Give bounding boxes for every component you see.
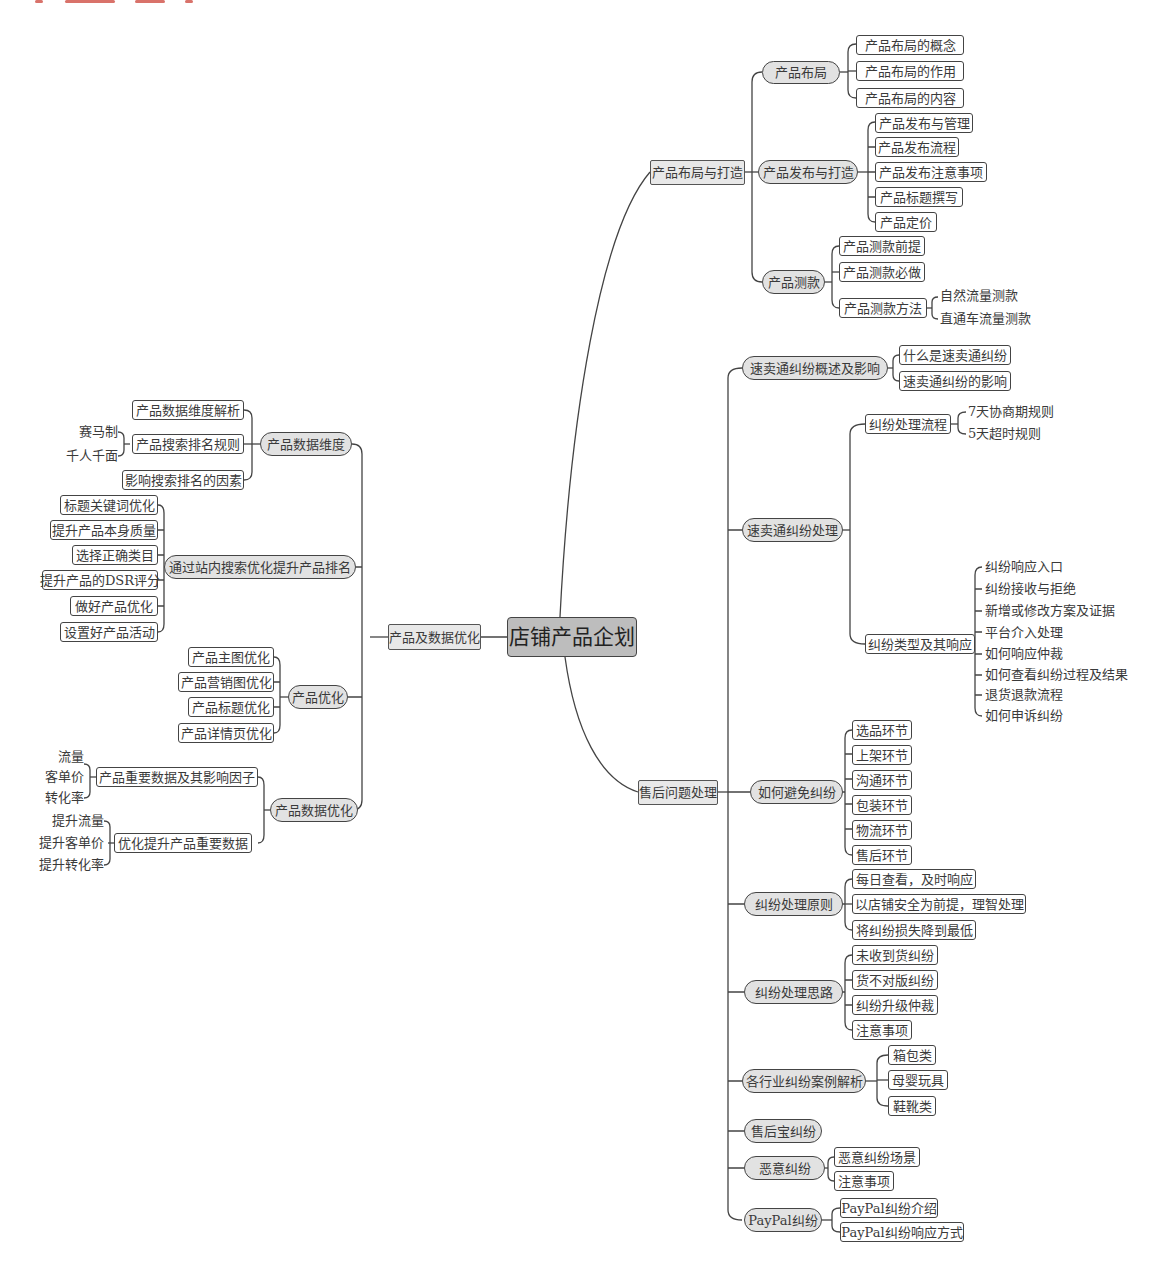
leaf-search-rank-rules[interactable]: 产品搜索排名规则 — [132, 434, 244, 454]
branch-aftersale[interactable]: 售后问题处理 — [638, 780, 718, 805]
text-types-0: 纠纷响应入口 — [985, 560, 1063, 573]
leaf-search-1[interactable]: 提升产品本身质量 — [50, 520, 158, 540]
node-product-publish[interactable]: 产品发布与打造 — [758, 160, 858, 184]
leaf-layout-role[interactable]: 产品布局的作用 — [856, 61, 964, 81]
leaf-avoid-1[interactable]: 上架环节 — [852, 745, 912, 765]
leaf-optimize-2[interactable]: 产品标题优化 — [188, 697, 274, 717]
text-improve-conversion: 提升转化率 — [30, 858, 104, 871]
text-5day-rule: 5天超时规则 — [968, 427, 1041, 440]
node-paypal-dispute[interactable]: PayPal纠纷 — [744, 1208, 822, 1232]
node-malicious-dispute[interactable]: 恶意纠纷 — [744, 1156, 825, 1180]
node-product-layout[interactable]: 产品布局 — [762, 61, 840, 84]
node-data-optimize[interactable]: 产品数据优化 — [270, 798, 358, 822]
leaf-avoid-0[interactable]: 选品环节 — [852, 720, 912, 740]
leaf-case-baby[interactable]: 母婴玩具 — [888, 1070, 948, 1090]
leaf-rank-factors[interactable]: 影响搜索排名的因素 — [122, 470, 244, 490]
text-types-3: 平台介入处理 — [985, 626, 1063, 639]
node-avoid-dispute[interactable]: 如何避免纠纷 — [750, 780, 843, 804]
leaf-malicious-notes[interactable]: 注意事项 — [834, 1171, 894, 1191]
node-dispute-principle[interactable]: 纠纷处理原则 — [744, 892, 843, 916]
leaf-publish-flow[interactable]: 产品发布流程 — [875, 137, 959, 157]
leaf-principle-0[interactable]: 每日查看，及时响应 — [852, 869, 976, 889]
text-types-4: 如何响应仲裁 — [985, 647, 1063, 660]
text-types-2: 新增或修改方案及证据 — [985, 604, 1115, 617]
branch-data[interactable]: 产品及数据优化 — [388, 624, 481, 650]
branch-layout[interactable]: 产品布局与打造 — [650, 160, 745, 185]
leaf-search-5[interactable]: 设置好产品活动 — [60, 622, 158, 642]
leaf-dispute-impact[interactable]: 速卖通纠纷的影响 — [899, 371, 1011, 391]
leaf-malicious-scene[interactable]: 恶意纠纷场景 — [834, 1147, 920, 1167]
node-dispute-approach[interactable]: 纠纷处理思路 — [744, 980, 843, 1004]
text-improve-traffic: 提升流量 — [30, 814, 104, 827]
text-horse-race: 赛马制 — [80, 425, 118, 438]
text-types-6: 退货退款流程 — [985, 688, 1063, 701]
text-personalized: 千人千面 — [66, 449, 118, 462]
node-product-testing[interactable]: 产品测款 — [762, 270, 825, 294]
leaf-case-shoes[interactable]: 鞋靴类 — [888, 1096, 936, 1116]
node-key-data-factors[interactable]: 产品重要数据及其影响因子 — [96, 767, 258, 787]
leaf-paypal-intro[interactable]: PayPal纠纷介绍 — [840, 1198, 938, 1218]
leaf-case-bags[interactable]: 箱包类 — [888, 1045, 936, 1065]
leaf-optimize-0[interactable]: 产品主图优化 — [188, 647, 274, 667]
node-industry-cases[interactable]: 各行业纠纷案例解析 — [742, 1069, 866, 1093]
text-7day-rule: 7天协商期规则 — [968, 405, 1054, 418]
leaf-approach-1[interactable]: 货不对版纠纷 — [852, 970, 938, 990]
leaf-search-2[interactable]: 选择正确类目 — [72, 545, 158, 565]
text-aov: 客单价 — [40, 770, 84, 783]
node-product-optimize[interactable]: 产品优化 — [288, 685, 348, 709]
text-traffic: 流量 — [40, 750, 84, 763]
node-dispute-types[interactable]: 纠纷类型及其响应 — [865, 634, 975, 654]
leaf-search-0[interactable]: 标题关键词优化 — [60, 495, 158, 515]
text-types-5: 如何查看纠纷过程及结果 — [985, 668, 1128, 681]
node-dispute-process[interactable]: 纠纷处理流程 — [865, 414, 951, 434]
leaf-avoid-2[interactable]: 沟通环节 — [852, 770, 912, 790]
root-node[interactable]: 店铺产品企划 — [507, 617, 637, 657]
leaf-principle-1[interactable]: 以店铺安全为前提，理智处理 — [852, 894, 1026, 914]
leaf-search-4[interactable]: 做好产品优化 — [70, 596, 158, 616]
leaf-layout-concept[interactable]: 产品布局的概念 — [856, 35, 964, 55]
leaf-optimize-1[interactable]: 产品营销图优化 — [178, 672, 274, 692]
leaf-approach-3[interactable]: 注意事项 — [852, 1020, 912, 1040]
leaf-optimize-3[interactable]: 产品详情页优化 — [178, 723, 274, 743]
text-ztc-traffic: 直通车流量测款 — [940, 312, 1031, 325]
leaf-publish-manage[interactable]: 产品发布与管理 — [875, 113, 973, 133]
leaf-principle-2[interactable]: 将纠纷损失降到最低 — [852, 920, 976, 940]
node-improve-key-data[interactable]: 优化提升产品重要数据 — [114, 833, 252, 853]
text-improve-aov: 提升客单价 — [30, 836, 104, 849]
text-types-7: 如何申诉纠纷 — [985, 709, 1063, 722]
leaf-pricing[interactable]: 产品定价 — [875, 212, 937, 232]
node-data-dimension[interactable]: 产品数据维度 — [260, 432, 352, 456]
leaf-approach-2[interactable]: 纠纷升级仲裁 — [852, 995, 938, 1015]
leaf-testing-must[interactable]: 产品测款必做 — [839, 262, 925, 282]
leaf-layout-content[interactable]: 产品布局的内容 — [856, 88, 964, 108]
node-dispute-overview[interactable]: 速卖通纠纷概述及影响 — [742, 356, 888, 380]
text-types-1: 纠纷接收与拒绝 — [985, 582, 1076, 595]
leaf-dimension-analysis[interactable]: 产品数据维度解析 — [132, 400, 244, 420]
leaf-publish-notes[interactable]: 产品发布注意事项 — [875, 162, 987, 182]
node-dispute-handling[interactable]: 速卖通纠纷处理 — [742, 518, 843, 542]
leaf-avoid-3[interactable]: 包装环节 — [852, 795, 912, 815]
leaf-paypal-response[interactable]: PayPal纠纷响应方式 — [840, 1222, 964, 1242]
text-conversion: 转化率 — [40, 791, 84, 804]
text-natural-traffic: 自然流量测款 — [940, 289, 1018, 302]
node-search-optimization[interactable]: 通过站内搜索优化提升产品排名 — [164, 555, 356, 579]
leaf-title-writing[interactable]: 产品标题撰写 — [875, 187, 963, 207]
leaf-testing-premise[interactable]: 产品测款前提 — [839, 236, 925, 256]
node-shouhoubao[interactable]: 售后宝纠纷 — [744, 1119, 822, 1143]
leaf-avoid-4[interactable]: 物流环节 — [852, 820, 912, 840]
leaf-what-is-dispute[interactable]: 什么是速卖通纠纷 — [899, 345, 1011, 365]
leaf-search-3[interactable]: 提升产品的DSR评分 — [42, 570, 158, 590]
leaf-avoid-5[interactable]: 售后环节 — [852, 845, 912, 865]
leaf-testing-method[interactable]: 产品测款方法 — [839, 298, 927, 318]
leaf-approach-0[interactable]: 未收到货纠纷 — [852, 945, 938, 965]
